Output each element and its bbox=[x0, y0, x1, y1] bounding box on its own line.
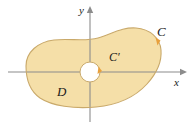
y-axis-arrowhead bbox=[87, 6, 93, 13]
region-label: D bbox=[57, 85, 66, 98]
inner-hole-group bbox=[80, 62, 100, 82]
figure-container: C C′ D x y bbox=[0, 0, 191, 128]
y-axis-label: y bbox=[79, 5, 84, 16]
region-diagram-svg bbox=[0, 0, 191, 128]
x-axis-arrowhead bbox=[180, 69, 187, 75]
inner-curve-label: C′ bbox=[109, 51, 120, 63]
x-axis-label: x bbox=[174, 77, 179, 88]
outer-curve-label: C bbox=[157, 25, 166, 38]
